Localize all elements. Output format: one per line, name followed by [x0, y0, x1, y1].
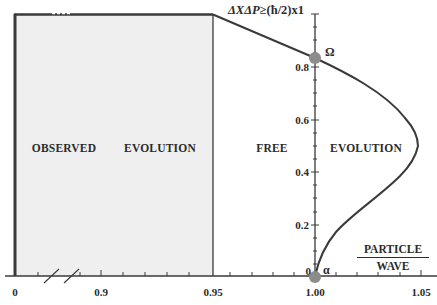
y-tick-label-0-4: 0.4 — [295, 166, 309, 178]
title-delta-x: ΔX — [228, 3, 244, 17]
y-tick-label-0-2: 0.2 — [295, 219, 309, 231]
y-tick-label-0: 0 — [306, 265, 312, 277]
omega-point-marker — [309, 52, 321, 64]
title-delta-p: ΔP — [244, 3, 259, 17]
region-label-free: FREE — [256, 142, 287, 154]
region-label-observed: OBSERVED — [32, 142, 96, 154]
region-label-observed-evolution: EVOLUTION — [124, 142, 196, 154]
y-axis-title: ΔXΔP≥(ħ/2)x1 — [228, 3, 304, 18]
x-axis-title-denominator: WAVE — [357, 258, 429, 272]
x-tick-label-0: 0 — [12, 286, 18, 298]
y-tick-label-0-6: 0.6 — [295, 114, 309, 126]
y-tick-label-0-8: 0.8 — [295, 61, 309, 73]
region-label-free-evolution: EVOLUTION — [330, 142, 402, 154]
alpha-label: α — [323, 263, 330, 278]
title-rest: ≥(ħ/2)x1 — [260, 3, 304, 17]
x-axis-title-numerator: PARTICLE — [357, 243, 429, 258]
x-axis-title: PARTICLE WAVE — [357, 243, 429, 272]
x-tick-label-0-95: 0.95 — [203, 286, 222, 298]
x-tick-label-1-05: 1.05 — [411, 286, 430, 298]
x-tick-label-0-9: 0.9 — [94, 286, 108, 298]
omega-label: Ω — [325, 45, 335, 60]
x-tick-label-1-00: 1.00 — [305, 286, 324, 298]
